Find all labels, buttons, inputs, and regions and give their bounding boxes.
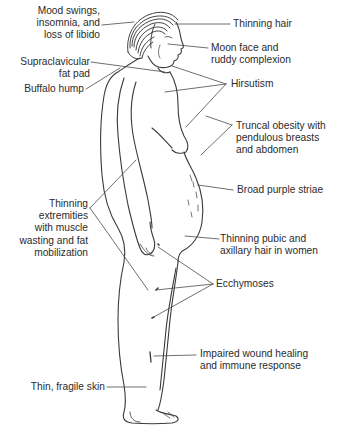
label-mood-swings: Mood swings, insomnia, and loss of libid… — [14, 5, 100, 42]
label-line: fat pad — [8, 68, 90, 80]
label-line: with muscle — [8, 222, 88, 234]
ecchymosis-marks — [152, 244, 159, 318]
label-hirsutism: Hirsutism — [231, 78, 273, 90]
label-broad-purple-striae: Broad purple striae — [237, 184, 323, 196]
front-outline — [170, 72, 188, 153]
label-line: mobilization — [8, 247, 88, 259]
label-line: Truncal obesity with — [236, 120, 326, 132]
label-line: Ecchymoses — [216, 278, 274, 290]
label-line: Impaired wound healing — [200, 348, 308, 360]
striae-marks — [188, 175, 198, 217]
label-line: Thinning — [8, 198, 88, 210]
label-line: axillary hair in women — [220, 245, 318, 257]
label-line: extremities — [8, 210, 88, 222]
label-line: Buffalo hump — [10, 83, 84, 95]
label-impaired-wound-healing: Impaired wound healing and immune respon… — [200, 348, 308, 372]
label-line: Broad purple striae — [237, 184, 323, 196]
label-line: loss of libido — [14, 29, 100, 41]
hair-icon — [128, 12, 178, 58]
label-thin-fragile-skin: Thin, fragile skin — [10, 381, 105, 393]
label-line: Thinning hair — [233, 18, 292, 30]
label-buffalo-hump: Buffalo hump — [10, 83, 84, 95]
label-line: pendulous breasts — [236, 132, 326, 144]
label-line: Hirsutism — [231, 78, 273, 90]
label-moon-face: Moon face and ruddy complexion — [211, 42, 291, 66]
cushing-syndrome-diagram: Mood swings, insomnia, and loss of libid… — [0, 0, 339, 436]
label-ecchymoses: Ecchymoses — [216, 278, 274, 290]
label-supraclavicular-fat-pad: Supraclavicular fat pad — [8, 56, 90, 80]
label-line: Thinning pubic and — [220, 233, 318, 245]
label-line: Mood swings, — [14, 5, 100, 17]
label-line: Supraclavicular — [8, 56, 90, 68]
leader-lines — [86, 22, 233, 387]
back-outline — [101, 58, 178, 424]
label-line: insomnia, and — [14, 17, 100, 29]
label-thinning-pubic-hair: Thinning pubic and axillary hair in wome… — [220, 233, 318, 257]
label-line: and immune response — [200, 360, 308, 372]
label-line: ruddy complexion — [211, 54, 291, 66]
label-truncal-obesity: Truncal obesity with pendulous breasts a… — [236, 120, 326, 157]
label-line: wasting and fat — [8, 235, 88, 247]
label-line: Moon face and — [211, 42, 291, 54]
label-thinning-hair: Thinning hair — [233, 18, 292, 30]
label-line: Thin, fragile skin — [10, 381, 105, 393]
label-thinning-extremities: Thinning extremities with muscle wasting… — [8, 198, 88, 259]
arm-outline — [117, 78, 155, 255]
label-line: and abdomen — [236, 144, 326, 156]
